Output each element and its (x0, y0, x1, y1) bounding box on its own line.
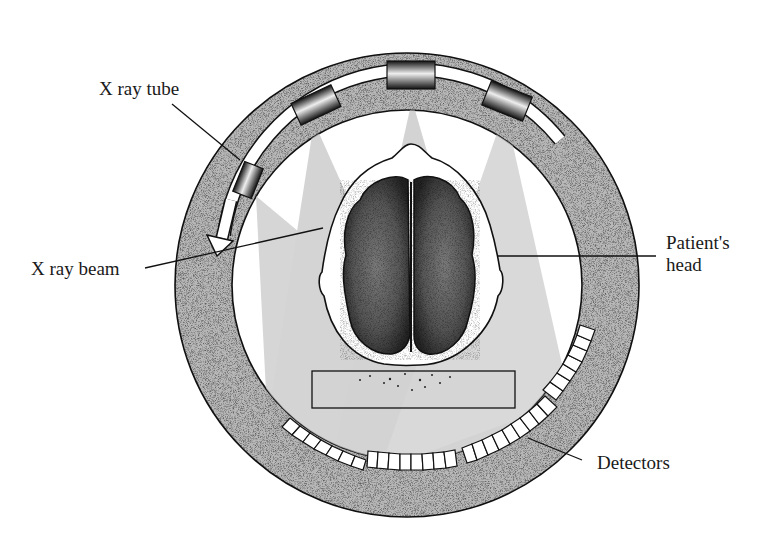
label-patient-head-line1: Patient's (666, 232, 730, 254)
label-detectors: Detectors (597, 452, 670, 474)
label-patient-head-line2: head (666, 254, 730, 276)
label-xray-beam: X ray beam (31, 258, 120, 280)
label-patient-head: Patient's head (666, 232, 730, 276)
brain (340, 177, 480, 360)
patient-table (312, 371, 515, 408)
xray-tube-icon (387, 61, 435, 89)
label-xray-tube: X ray tube (99, 78, 179, 100)
